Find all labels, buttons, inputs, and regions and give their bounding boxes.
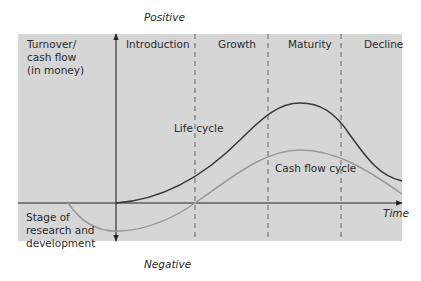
rd-label-line3: development (26, 237, 95, 250)
cash-flow-cycle-label: Cash flow cycle (275, 162, 356, 175)
life-cycle-label: Life cycle (174, 122, 223, 135)
rd-label-line1: Stage of (26, 211, 70, 224)
phase-decline: Decline (364, 38, 403, 51)
negative-label: Negative (144, 258, 191, 271)
y-axis-label-line1: Turnover/ (27, 38, 76, 51)
y-axis-label-line2: cash flow (27, 51, 76, 64)
phase-maturity: Maturity (288, 38, 332, 51)
phase-introduction: Introduction (126, 38, 190, 51)
phase-growth: Growth (218, 38, 256, 51)
positive-label: Positive (144, 11, 185, 24)
life-cycle-curve (116, 103, 402, 203)
rd-label-line2: research and (26, 224, 95, 237)
time-axis-label: Time (383, 207, 409, 220)
y-axis-label-line3: (in money) (27, 64, 84, 77)
